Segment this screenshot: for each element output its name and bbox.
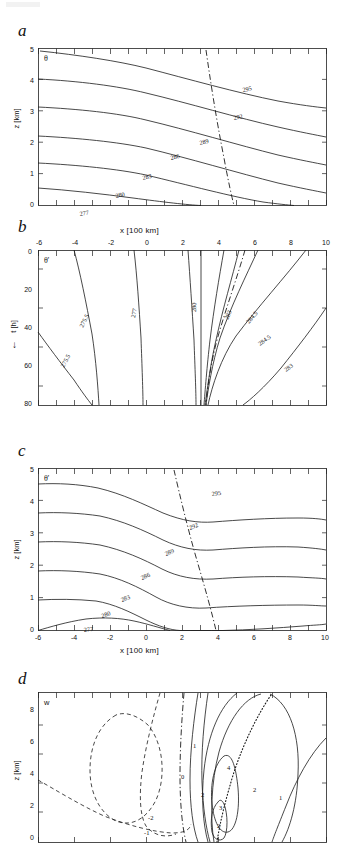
panel-a-ytick-3: 3	[18, 108, 34, 115]
panel-b-time-arrow: ↓	[12, 340, 17, 350]
contour-label-275p5-b: 275.5	[78, 313, 90, 329]
contour-label-275p5-a: 275.5	[59, 353, 72, 369]
panel-b-plot: 275.5 275.5 277 280 283 284.5 284.5 283	[38, 250, 338, 450]
panel-a: a z [km] 5 4 3 2 1 0	[0, 18, 339, 210]
panel-c-ytick-2: 2	[18, 562, 34, 569]
panel-c-xtick--6: -6	[31, 634, 45, 641]
panel-d-plot: -2 -1 0 1 2 4 3 2 2 1	[38, 692, 338, 849]
contour-label-286-c: 286	[140, 571, 151, 581]
panel-c-xtick-6: 6	[247, 634, 261, 641]
contour-label-4: 4	[227, 764, 231, 771]
panel-b-ytick-20: 20	[16, 286, 32, 293]
panel-c-ytick-1: 1	[18, 594, 34, 601]
contour-label-289-c: 289	[164, 547, 175, 557]
panel-c: c z [km] 5 4 3 2 1 0	[0, 440, 339, 660]
contour-label-neg1: -1	[144, 829, 149, 836]
contour-label-289: 289	[199, 137, 210, 146]
panel-c-letter: c	[18, 442, 26, 459]
panel-c-xtick-2: 2	[175, 634, 189, 641]
panel-d-letter: d	[18, 670, 27, 687]
panel-c-ytick-4: 4	[18, 498, 34, 505]
panel-b-letter: b	[18, 218, 27, 235]
contour-label-2b: 2	[217, 822, 220, 829]
contour-label-286: 286	[169, 152, 180, 161]
panel-a-ytick-4: 4	[18, 77, 34, 84]
contour-label-283-c: 283	[120, 593, 131, 603]
panel-d-ytick-2: 2	[18, 802, 34, 809]
contour-label-280: 280	[190, 303, 197, 313]
contour-label-277-c: 277	[83, 625, 93, 633]
panel-c-xtick-10: 10	[317, 634, 333, 641]
panel-d-ytick-4: 4	[18, 770, 34, 777]
contour-label-292-c: 292	[188, 521, 199, 531]
contour-label-284p5-b: 284.5	[256, 333, 271, 347]
panel-c-ytick-0: 0	[18, 626, 34, 633]
panel-b-xtick-2: 2	[176, 239, 190, 246]
panel-d-ytick-0: 0	[18, 834, 34, 841]
panel-b-ytick-80: 80	[16, 400, 32, 407]
contour-label-295: 295	[242, 84, 252, 93]
panel-b-xtick--4: -4	[68, 239, 82, 246]
contour-label-1a: 1	[193, 742, 196, 749]
panel-d: d z [km] 8 6 4 2 0	[0, 670, 339, 849]
panel-d-variable-label: w	[44, 698, 49, 707]
contour-label-283: 283	[223, 309, 233, 320]
figure-panel-set: a z [km] 5 4 3 2 1 0	[0, 0, 339, 849]
panel-a-ytick-0: 0	[18, 201, 34, 208]
panel-c-xtick--4: -4	[67, 634, 81, 641]
contour-label-284p5-a: 284.5	[244, 309, 258, 324]
panel-b-xtick-0: 0	[140, 239, 154, 246]
panel-c-xtick-4: 4	[211, 634, 225, 641]
panel-b-xtick--2: -2	[104, 239, 118, 246]
panel-b-variable-label: θ'	[44, 256, 49, 265]
panel-b-xtick-8: 8	[284, 239, 298, 246]
panel-c-ytick-5: 5	[18, 466, 34, 473]
contour-label-3: 3	[219, 804, 222, 811]
panel-c-xtick-0: 0	[139, 634, 153, 641]
panel-b-xtick-10: 10	[318, 239, 334, 246]
panel-b-xtick-6: 6	[248, 239, 262, 246]
panel-a-variable-label: θ	[44, 54, 48, 63]
contour-label-283: 283	[142, 172, 153, 181]
panel-c-xlabel: x [100 km]	[120, 646, 159, 655]
contour-label-2a: 2	[201, 791, 204, 798]
panel-b-ytick-60: 60	[16, 362, 32, 369]
panel-d-ytick-8: 8	[18, 706, 34, 713]
contour-label-2c: 2	[253, 786, 256, 793]
panel-b-ytick-0: 0	[16, 248, 32, 255]
panel-c-xtick-8: 8	[283, 634, 297, 641]
panel-b-ytick-40: 40	[16, 324, 32, 331]
scan-artifact	[6, 2, 40, 7]
panel-b: b x [100 km] -6 -4 -2 0 2 4 6 8 10 t [h]…	[0, 212, 339, 417]
panel-a-ytick-5: 5	[18, 46, 34, 53]
panel-c-xtick--2: -2	[103, 634, 117, 641]
panel-a-ytick-2: 2	[18, 139, 34, 146]
contour-label-neg2: -2	[148, 814, 153, 821]
contour-label-280: 280	[115, 190, 126, 199]
panel-a-ytick-1: 1	[18, 170, 34, 177]
panel-c-ytick-3: 3	[18, 530, 34, 537]
panel-b-xlabel: x [100 km]	[120, 226, 159, 235]
contour-label-280-c: 280	[100, 609, 111, 619]
contour-label-1b: 1	[279, 794, 282, 801]
panel-a-letter: a	[18, 22, 27, 39]
panel-b-xtick-4: 4	[212, 239, 226, 246]
panel-b-xtick--6: -6	[32, 239, 46, 246]
contour-label-295-c: 295	[211, 489, 221, 497]
contour-label-zero: 0	[181, 773, 184, 780]
panel-d-ytick-6: 6	[18, 738, 34, 745]
contour-label-292: 292	[233, 112, 244, 121]
contour-label-277: 277	[129, 308, 138, 319]
panel-c-variable-label: θ'	[44, 474, 49, 483]
panel-a-ylabel: z [km]	[12, 99, 21, 139]
